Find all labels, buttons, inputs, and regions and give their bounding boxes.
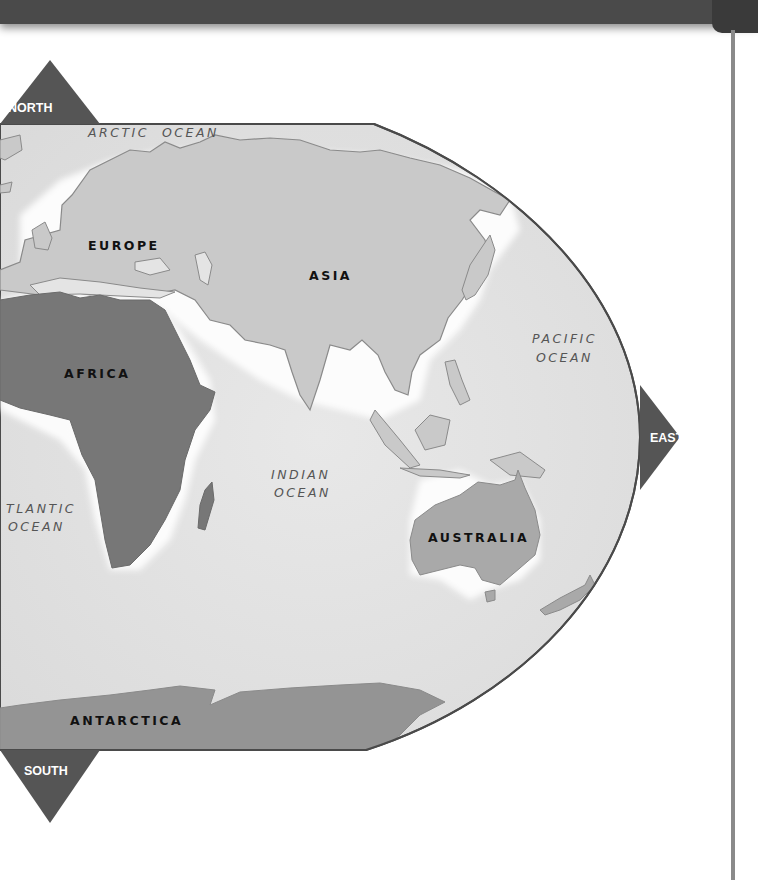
east-marker: EAST [640,385,684,490]
atlantic-ocean-label-line2: OCEAN [8,519,65,534]
world-map: NORTH EAST SOUTH EUROPE ASIA AFRICA AUST… [0,0,758,880]
australia-label: AUSTRALIA [428,530,529,545]
north-label: NORTH [8,101,52,115]
asia-label: ASIA [309,268,352,283]
indian-ocean-label-line1: INDIAN [271,467,330,482]
africa-label: AFRICA [64,366,130,381]
north-marker: NORTH [0,60,100,124]
antarctica-label: ANTARCTICA [70,713,183,728]
south-marker: SOUTH [0,750,100,823]
indian-ocean-label-line2: OCEAN [274,485,331,500]
pacific-ocean-label-line2: OCEAN [536,350,593,365]
atlantic-ocean-label-line1: TLANTIC [6,501,76,516]
east-label: EAST [650,431,684,445]
pacific-ocean-label-line1: PACIFIC [532,331,597,346]
south-label: SOUTH [24,764,68,778]
arctic-ocean-label: ARCTIC OCEAN [87,125,219,140]
europe-label: EUROPE [88,238,160,253]
